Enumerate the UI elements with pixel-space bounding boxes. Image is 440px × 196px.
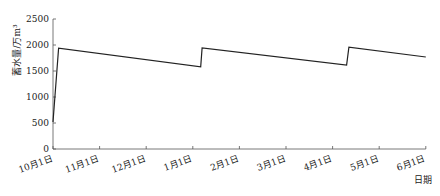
x-tick-label: 1月1日 [162, 153, 193, 172]
x-axis-label: 日期 [414, 175, 432, 185]
y-tick-label: 500 [32, 118, 49, 128]
series-lines [53, 47, 426, 122]
x-tick-label: 3月1日 [256, 153, 287, 172]
y-tick-label: 0 [43, 144, 49, 154]
x-tick-label: 11月1日 [64, 153, 100, 174]
x-tick-label: 5月1日 [349, 153, 380, 172]
storage-line-chart: 05001000150020002500 10月1日11月1日12月1日1月1日… [0, 0, 440, 196]
x-tick-label: 2月1日 [209, 153, 240, 172]
x-tick-label: 6月1日 [395, 153, 426, 172]
axes [53, 19, 426, 149]
y-tick-label: 2000 [26, 40, 49, 50]
y-tick-label: 2500 [26, 14, 49, 24]
storage-series-line [53, 47, 426, 122]
y-tick-label: 1500 [26, 66, 49, 76]
y-axis-label: 蓄水量/万m³ [11, 24, 22, 76]
x-tick-label: 12月1日 [110, 153, 146, 174]
y-axis-ticks: 05001000150020002500 [26, 14, 56, 154]
y-tick-label: 1000 [26, 92, 49, 102]
x-tick-label: 10月1日 [17, 153, 53, 174]
x-axis-ticks: 10月1日11月1日12月1日1月1日2月1日3月1日4月1日5月1日6月1日 [17, 146, 426, 175]
x-tick-label: 4月1日 [302, 153, 333, 172]
